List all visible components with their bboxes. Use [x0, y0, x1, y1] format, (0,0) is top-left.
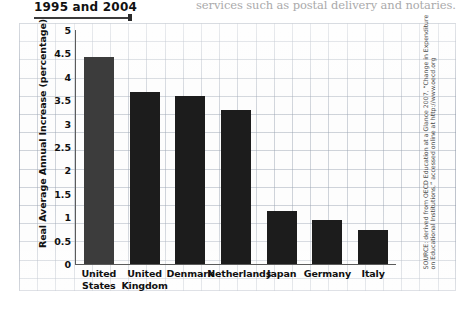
x-tick-label-line: Italy [344, 268, 402, 280]
y-tick-label: 1 [47, 212, 71, 223]
y-tick-label: 0 [47, 259, 71, 270]
bar [221, 110, 251, 264]
bar-chart: Real Average Annual Increase (percentage… [19, 23, 456, 291]
bar [175, 96, 205, 264]
y-axis-tick-labels: 00.511.522.533.544.55 [45, 23, 71, 291]
bar [312, 220, 342, 264]
y-tick-label: 1.5 [47, 188, 71, 199]
caption-underline-end-tick [128, 14, 132, 21]
y-tick-label: 2 [47, 165, 71, 176]
x-axis-line [75, 264, 396, 265]
bar [130, 92, 160, 264]
y-tick-label: 4.5 [47, 48, 71, 59]
source-note: SOURCE: derived from OECD Education at a… [422, 7, 437, 269]
x-axis-tick-labels: UnitedStatesUnitedKingdomDenmarkNetherla… [76, 268, 396, 302]
y-tick-label: 0.5 [47, 235, 71, 246]
bar [358, 230, 388, 264]
x-tick-label-line: Kingdom [116, 280, 174, 292]
y-tick-label: 4 [47, 71, 71, 82]
bar [84, 57, 114, 264]
bar [267, 211, 297, 264]
y-tick-label: 5 [47, 25, 71, 36]
y-tick-label: 3.5 [47, 95, 71, 106]
figure-caption-fragment: 1995 and 2004 [34, 0, 137, 14]
x-tick-label: Italy [344, 268, 402, 280]
y-tick-label: 2.5 [47, 142, 71, 153]
plot-area [76, 30, 396, 264]
page-body-text-fragment: services such as postal delivery and not… [196, 0, 457, 11]
caption-underline [34, 17, 132, 19]
y-tick-label: 3 [47, 118, 71, 129]
